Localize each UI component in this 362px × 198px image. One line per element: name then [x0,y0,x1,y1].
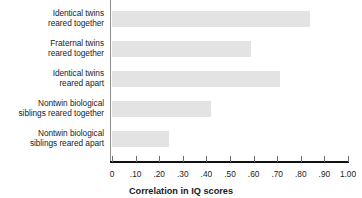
plot-area [112,0,348,160]
x-axis-tick [206,156,207,162]
x-axis-tick-label: .80 [295,169,307,179]
category-label-nontwin-together: Nontwin biological siblings reared toget… [0,98,104,119]
x-axis-tick [324,156,325,162]
x-axis-tick-label: .20 [153,169,165,179]
x-axis-tick-label: .70 [271,169,283,179]
x-axis-tick-label: 0 [110,169,115,179]
category-label-column: Identical twins reared together Fraterna… [0,0,108,160]
x-axis-tick [348,156,349,162]
x-axis-tick [112,156,113,162]
x-axis-tick [136,156,137,162]
x-axis-tick [230,156,231,162]
category-label-line2: siblings reared together [18,108,104,118]
bar-nontwin-apart [112,131,169,147]
category-label-identical-apart: Identical twins reared apart [0,68,104,89]
category-label-line1: Fraternal twins [50,38,104,48]
category-label-line1: Nontwin biological [38,98,104,108]
category-label-identical-together: Identical twins reared together [0,8,104,29]
x-axis-tick-label: .40 [201,169,213,179]
x-axis-tick-label: .60 [248,169,260,179]
bar-identical-apart [112,71,280,87]
x-axis-tick-label: .90 [319,169,331,179]
bar-nontwin-together [112,101,211,117]
x-axis-tick-label: .50 [224,169,236,179]
x-axis-tick-label: .10 [130,169,142,179]
x-axis-tick [254,156,255,162]
x-axis-tick [159,156,160,162]
category-label-line2: reared together [48,48,104,58]
bar-identical-together [112,11,310,27]
x-axis-tick [301,156,302,162]
x-axis-tick [183,156,184,162]
category-label-fraternal-together: Fraternal twins reared together [0,38,104,59]
bar-fraternal-together [112,41,251,57]
category-label-line1: Identical twins [53,8,104,18]
category-label-nontwin-apart: Nontwin biological siblings reared apart [0,128,104,149]
x-axis-tick [277,156,278,162]
x-axis-title: Correlation in IQ scores [0,186,362,196]
category-label-line1: Nontwin biological [38,128,104,138]
iq-correlation-bar-chart: Identical twins reared together Fraterna… [0,0,362,198]
x-axis-tick-label: .30 [177,169,189,179]
x-axis-tick-label: 1.00 [340,169,356,179]
category-label-line2: reared together [48,18,104,28]
category-label-line2: siblings reared apart [30,138,104,148]
category-label-line2: reared apart [59,78,104,88]
category-label-line1: Identical twins [53,68,104,78]
